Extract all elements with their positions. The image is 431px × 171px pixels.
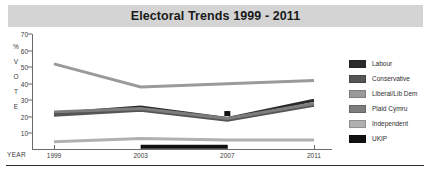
x-tick-label: 2007 [220, 152, 234, 159]
legend-item[interactable]: Conservative [349, 71, 427, 86]
legend-swatch-icon [349, 105, 366, 113]
legend-item-label: UKIP [372, 135, 387, 142]
legend-item[interactable]: Labour [349, 56, 427, 71]
x-axis-title: YEAR [7, 151, 26, 158]
legend-item-label: Independent [372, 120, 408, 127]
legend-item-label: Labour [372, 60, 392, 67]
legend-item[interactable]: Liberal/Lib Dem [349, 86, 427, 101]
series-marker [224, 111, 230, 116]
legend-swatch-icon [349, 135, 366, 143]
x-tick-label: 2011 [307, 152, 321, 159]
chart-legend: LabourConservativeLiberal/Lib DemPlaid C… [349, 56, 427, 146]
legend-item[interactable]: Plaid Cymru [349, 101, 427, 116]
legend-item[interactable]: Independent [349, 116, 427, 131]
legend-item[interactable]: UKIP [349, 131, 427, 146]
plot-area: 10203040506070 1999200320072011 [32, 34, 332, 150]
legend-swatch-icon [349, 75, 366, 83]
x-tick-label: 1999 [47, 152, 61, 159]
y-axis-letter: % [13, 40, 19, 55]
legend-item-label: Conservative [372, 75, 410, 82]
series-line-liberal-lib-dem [54, 64, 314, 87]
y-axis-title: % V O T E [8, 40, 24, 140]
legend-swatch-icon [349, 120, 366, 128]
y-axis-letter: O [13, 70, 18, 85]
y-axis-letter: T [14, 85, 18, 100]
y-axis-letter: V [14, 55, 18, 70]
legend-swatch-icon [349, 60, 366, 68]
footer-divider [6, 165, 424, 166]
chart-title-band: Electoral Trends 1999 - 2011 [8, 5, 423, 27]
y-axis-letter: E [14, 100, 18, 115]
series-lines [32, 34, 332, 150]
legend-item-label: Plaid Cymru [372, 105, 407, 112]
legend-item-label: Liberal/Lib Dem [372, 90, 418, 97]
legend-swatch-icon [349, 90, 366, 98]
x-tick-label: 2003 [133, 152, 147, 159]
chart-figure: Electoral Trends 1999 - 2011 % V O T E Y… [0, 0, 431, 171]
page-title: Electoral Trends 1999 - 2011 [131, 9, 301, 23]
series-line-independent [54, 138, 314, 141]
